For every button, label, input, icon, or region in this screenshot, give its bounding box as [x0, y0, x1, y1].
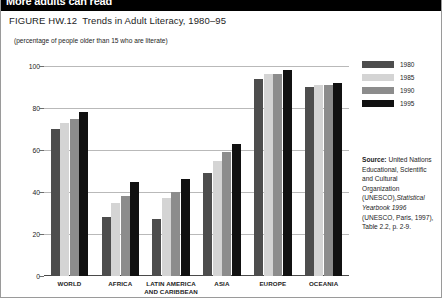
bar-1995: [283, 70, 292, 276]
x-axis-category-label: OCEANIA: [309, 280, 338, 288]
bar-1990: [70, 119, 79, 277]
y-axis-tick-label: 80: [18, 105, 40, 112]
legend-swatch-1985: [362, 74, 394, 81]
bar-1995: [130, 182, 139, 277]
y-axis-labels: 020406080100: [16, 66, 40, 276]
chart-legend: 1980198519901995: [362, 59, 437, 111]
legend-label-1985: 1985: [400, 74, 414, 81]
x-axis-category-label: WORLD: [57, 280, 81, 288]
figure-subtitle: (percentage of people older than 15 who …: [14, 37, 168, 44]
gridline: [44, 234, 349, 235]
legend-item-1990: 1990: [362, 85, 437, 96]
bar-1990: [273, 74, 282, 276]
y-axis-tick-mark: [39, 276, 44, 277]
bar-1990: [324, 85, 333, 276]
gridline: [44, 192, 349, 193]
legend-swatch-1995: [362, 100, 394, 107]
bar-1995: [181, 179, 190, 276]
bar-1995: [232, 144, 241, 276]
bar-1980: [203, 173, 212, 276]
bar-1980: [152, 219, 161, 276]
y-axis-tick-label: 40: [18, 189, 40, 196]
bar-1980: [305, 87, 314, 276]
legend-swatch-1990: [362, 87, 394, 94]
x-axis-line: [44, 275, 349, 276]
bar-group-oceania: OCEANIA: [305, 66, 343, 276]
source-text-2: (UNESCO, Paris, 1997), Table 2.2, p. 2-9…: [362, 214, 433, 231]
figure-caption: FIGURE HW.12Trends in Adult Literacy, 19…: [9, 15, 226, 26]
bar-group-asia: ASIA: [203, 66, 241, 276]
headline-text: More adults can read: [6, 0, 112, 7]
bar-1980: [51, 129, 60, 276]
legend-swatch-1980: [362, 61, 394, 68]
legend-label-1980: 1980: [400, 61, 414, 68]
headline-banner: More adults can read: [0, 0, 441, 9]
x-axis-category-label: EUROPE: [259, 280, 286, 288]
chart-plot-area: WORLDAFRICALATIN AMERICAAND CARIBBEANASI…: [44, 66, 349, 276]
legend-item-1985: 1985: [362, 72, 437, 83]
bar-1990: [121, 196, 130, 276]
bar-1990: [171, 192, 180, 276]
x-axis-category-label: LATIN AMERICAAND CARIBBEAN: [144, 280, 198, 296]
bar-group-europe: EUROPE: [254, 66, 292, 276]
bar-group-latin-america-and-caribbean: LATIN AMERICAAND CARIBBEAN: [152, 66, 190, 276]
y-axis-tick-label: 100: [18, 63, 40, 70]
bar-1985: [213, 161, 222, 277]
bar-1985: [60, 123, 69, 276]
figure-number: FIGURE HW.12: [9, 15, 77, 26]
source-label: Source:: [362, 156, 387, 163]
y-axis-tick-label: 0: [18, 273, 40, 280]
bar-1990: [222, 152, 231, 276]
x-axis-category-label: ASIA: [214, 280, 229, 288]
legend-label-1995: 1995: [400, 100, 414, 107]
gridline: [44, 150, 349, 151]
bar-1980: [254, 79, 263, 276]
legend-item-1995: 1995: [362, 98, 437, 109]
figure-title: Trends in Adult Literacy, 1980–95: [82, 15, 226, 26]
bar-1985: [111, 203, 120, 277]
legend-item-1980: 1980: [362, 59, 437, 70]
gridline: [44, 108, 349, 109]
bar-1985: [264, 74, 273, 276]
bar-1995: [333, 83, 342, 276]
bar-1995: [79, 112, 88, 276]
gridline: [44, 66, 349, 67]
bar-1985: [314, 85, 323, 276]
x-axis-category-label: AFRICA: [108, 280, 132, 288]
bar-group-africa: AFRICA: [102, 66, 140, 276]
y-axis-tick-label: 60: [18, 147, 40, 154]
banner-rule: [0, 9, 441, 11]
legend-label-1990: 1990: [400, 87, 414, 94]
bar-1980: [102, 217, 111, 276]
bar-1985: [162, 198, 171, 276]
bar-group-world: WORLD: [51, 66, 89, 276]
y-axis-tick-label: 20: [18, 231, 40, 238]
source-note: Source: United Nations Educational, Scie…: [362, 155, 436, 232]
